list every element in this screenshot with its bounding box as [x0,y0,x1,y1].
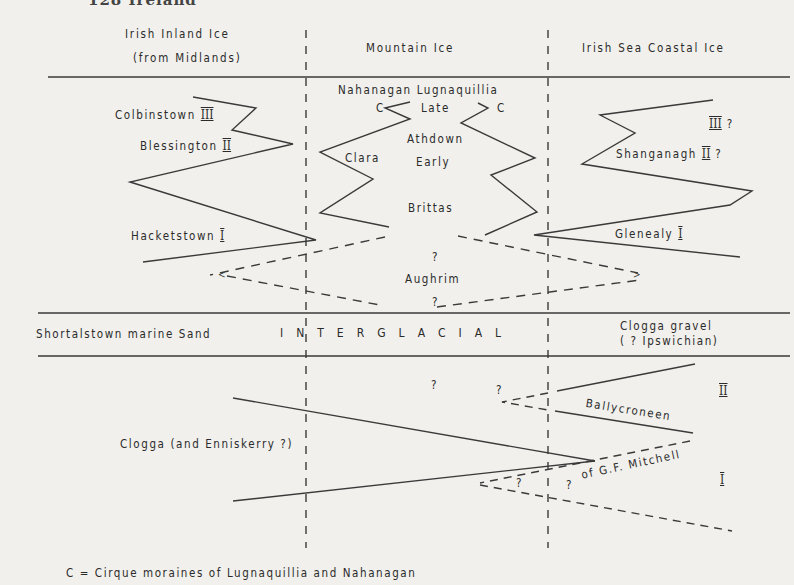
label-clogga-gravel: Clogga gravel [620,319,713,333]
stage-iii: III [201,108,214,122]
col-inland-title: Irish Inland Ice [125,27,230,41]
label-aughrim: Aughrim [405,272,460,286]
aughrim-dashed-se [437,280,640,307]
label-nahanagan-lugnaquillia: Nahanagan Lugnaquillia [338,83,498,97]
label-clara: Clara [345,151,380,165]
mountain-right-limit [461,103,537,235]
stage-i: I [220,229,224,243]
clogga-lower-limit [233,461,595,501]
label-glenealy: Glenealy I [615,227,682,241]
label-blessington: Blessington II [140,139,231,153]
ballycroneen-upper [557,364,695,391]
col-mountain-title: Mountain Ice [366,41,454,55]
svg-text:>: > [633,269,641,280]
label-q1: ? [431,378,438,392]
stage-ii: II [223,139,232,153]
label-cirque-right: C [497,101,506,115]
label-colbinstown: Colbinstown III [115,108,214,122]
aughrim-dashed-south [227,276,380,305]
col-coastal-title: Irish Sea Coastal Ice [582,41,725,55]
label-interglacial: INTERGLACIAL [280,326,514,340]
legend-cirque: C = Cirque moraines of Lugnaquillia and … [66,566,416,580]
label-early: Early [416,155,450,169]
label-shortalstown: Shortalstown marine Sand [36,327,211,341]
label-hacketstown: Hacketstown I [131,229,224,243]
label-ipswichian: ( ? Ipswichian) [620,334,719,348]
label-q3: ? [516,476,523,490]
label-q2: ? [496,383,503,397]
stratigraphy-diagram: 128 Ireland < > [0,0,794,585]
label-clogga-enniskerry: Clogga (and Enniskerry ?) [120,437,293,451]
label-late: Late [421,101,450,115]
label-coastal-stage-iii: III ? [709,117,734,131]
clogga-upper-limit [233,398,595,461]
label-q4: ? [566,478,573,492]
svg-text:<: < [218,269,226,280]
col-inland-subtitle: (from Midlands) [133,51,242,65]
label-athdown: Athdown [407,132,464,146]
ballycroneen-dashed [502,393,548,410]
label-brittas: Brittas [408,201,453,215]
mitchell-dashed-lower [480,485,732,531]
label-lower-stage-i: I [720,473,724,487]
label-lower-stage-ii: II [719,384,728,398]
label-q-aughrim-bottom: ? [432,295,439,309]
label-shanganagh: Shanganagh II ? [616,147,722,161]
label-cirque-left: C [376,101,385,115]
label-q-aughrim-top: ? [432,250,439,264]
